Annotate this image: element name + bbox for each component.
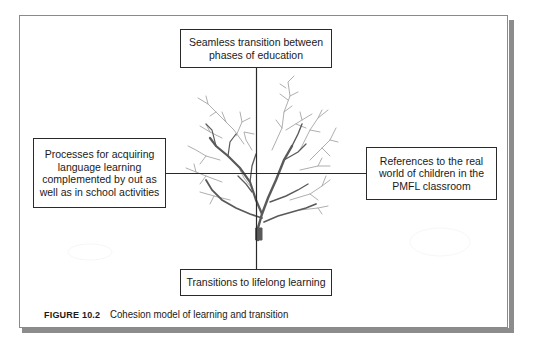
box-references-real-world: References to the real world of children… — [366, 147, 497, 200]
connector-lines — [166, 68, 366, 269]
box-seamless-transition: Seamless transition between phases of ed… — [180, 29, 332, 68]
figure-label: FIGURE 10.2 — [44, 309, 107, 320]
tree-icon — [186, 76, 338, 240]
background-smudge — [68, 228, 470, 260]
figure-title: Cohesion model of learning and transitio… — [110, 308, 288, 320]
box-lifelong-learning: Transitions to lifelong learning — [180, 269, 332, 296]
figure-caption: FIGURE 10.2 Cohesion model of learning a… — [44, 308, 304, 320]
box-processes-language-learning: Processes for acquiring language learnin… — [33, 138, 166, 208]
